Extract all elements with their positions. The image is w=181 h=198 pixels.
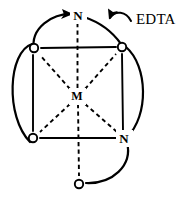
coordination-bond-m-to-o-top-right (85, 54, 116, 89)
edta-label: EDTA (136, 11, 176, 27)
chelate-arc-n-top-to-o-top-right (84, 17, 121, 44)
oxygen-top-left-node (30, 44, 38, 52)
nitrogen-bottom-right-label: N (119, 131, 129, 146)
coordination-bond-m-to-o-bottom-left (40, 104, 70, 132)
bond-o-top-left-to-o-top-right (41, 47, 116, 48)
edta-chelate-figure: N N M EDTA (0, 0, 181, 198)
coordination-bond-m-to-n-bottom-right (85, 104, 117, 132)
edta-diagram-svg: N N M EDTA (0, 0, 181, 198)
chelate-arc-outer-left (13, 44, 32, 142)
oxygen-top-right-node (118, 43, 126, 51)
chelate-arc-outer-bottom (86, 142, 128, 183)
chelate-arc-outer-right (126, 47, 143, 137)
coordination-bond-m-to-o-bottom (78, 104, 79, 176)
oxygen-bottom-left-node (29, 134, 37, 142)
bond-o-top-right-to-n-bottom-right (122, 54, 123, 131)
oxygen-bottom-node (75, 180, 83, 188)
edta-pointer-arrowhead-icon (108, 9, 118, 20)
chelate-arc-n-top-to-o-top-left (34, 14, 74, 50)
metal-center-label: M (71, 89, 82, 103)
coordination-bond-m-to-o-top-left (40, 55, 70, 89)
nitrogen-top-label: N (73, 8, 83, 23)
